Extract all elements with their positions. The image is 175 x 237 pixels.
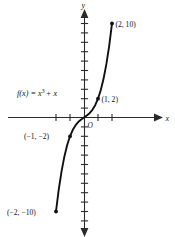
function-equation-label: f(x) = x3+ x (17, 88, 57, 98)
x-axis-label: x (165, 114, 170, 123)
function-equation-prefix: f(x) = x (17, 89, 42, 98)
point-marker-neg1-neg2 (68, 134, 72, 138)
point-label-neg2-neg10: (−2, −10) (7, 208, 36, 217)
function-equation-suffix: + x (46, 89, 58, 98)
y-axis-arrowhead-top (81, 9, 89, 18)
y-axis-arrowhead-bottom (81, 228, 89, 237)
point-label-1-2: (1, 2) (102, 95, 119, 104)
point-marker-1-2 (96, 97, 100, 101)
point-marker-neg2-neg10 (54, 210, 58, 214)
graph-canvas: (2, 10) (1, 2) (−1, −2) (−2, −10) f(x) =… (0, 0, 175, 237)
x-axis-arrowhead (154, 114, 163, 122)
function-equation-exponent: 3 (42, 88, 45, 94)
point-label-2-10: (2, 10) (116, 20, 137, 29)
point-label-neg1-neg2: (−1, −2) (24, 132, 49, 141)
y-axis-label: y (81, 1, 86, 10)
point-marker-2-10 (110, 22, 114, 26)
origin-label: O (88, 121, 94, 130)
cubic-function-graph-figure: (2, 10) (1, 2) (−1, −2) (−2, −10) f(x) =… (0, 0, 175, 237)
